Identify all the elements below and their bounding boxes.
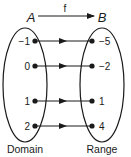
range-caption: Range: [87, 143, 118, 155]
mapping-arrowhead: [59, 123, 67, 129]
range-element-label: 4: [99, 121, 105, 132]
function-label: f: [64, 3, 67, 14]
domain-element-label: 2: [24, 121, 30, 132]
function-mapping-diagram: A B f −1−50−21124 Domain Range: [0, 0, 131, 157]
domain-element-label: 0: [24, 61, 30, 72]
domain-set-label: A: [26, 10, 36, 25]
range-element-label: 1: [99, 96, 105, 107]
mapping-row: −1−5: [19, 36, 111, 47]
mapping-row: 11: [24, 96, 105, 107]
domain-caption: Domain: [7, 143, 43, 155]
range-element-label: −2: [99, 61, 111, 72]
range-element-label: −5: [99, 36, 111, 47]
mapping-arrowhead: [59, 98, 67, 104]
mapping-arrowhead: [59, 63, 67, 69]
mapping-row: 24: [24, 121, 105, 132]
range-set-label: B: [98, 10, 107, 25]
range-point: [89, 38, 94, 43]
mapping-row: 0−2: [24, 61, 110, 72]
range-point: [89, 63, 94, 68]
domain-element-label: −1: [19, 36, 31, 47]
mapping-arrowhead: [59, 38, 67, 44]
domain-element-label: 1: [24, 96, 30, 107]
range-point: [89, 123, 94, 128]
range-point: [89, 98, 94, 103]
